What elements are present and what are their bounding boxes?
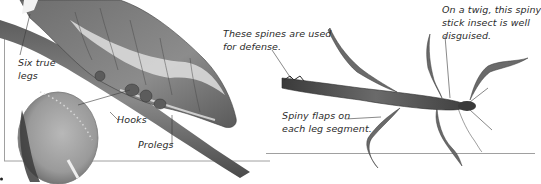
caption-line: disguised. <box>442 29 541 42</box>
caption-line: for defense. <box>223 40 331 53</box>
caption-twig-disguise: On a twig, this spiny stick insect is we… <box>442 3 541 42</box>
caption-six-true-legs: Six true legs <box>18 56 56 82</box>
caption-line: each leg segment. <box>282 122 372 135</box>
caption-line: These spines are used <box>223 27 331 40</box>
caption-line: On a twig, this spiny <box>442 3 541 16</box>
caption-spines-defense: These spines are used for defense. <box>223 27 331 53</box>
caption-line: Six true <box>18 56 56 69</box>
caption-line: legs <box>18 69 56 82</box>
page-mark <box>0 178 3 181</box>
caption-prolegs: Prolegs <box>138 138 174 151</box>
caption-spiny-flaps: Spiny flaps on each leg segment. <box>282 109 372 135</box>
magnified-hooks-inset <box>18 92 98 184</box>
caption-hooks: Hooks <box>117 113 147 126</box>
caption-line: stick insect is well <box>442 16 541 29</box>
caption-line: Spiny flaps on <box>282 109 372 122</box>
